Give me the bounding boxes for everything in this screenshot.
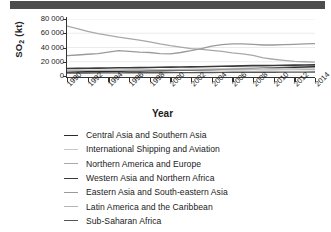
chart-figure: SO2 (kt) 020 00040 00060 00080 000 19901… xyxy=(0,11,325,232)
x-tick-mark xyxy=(88,78,89,82)
x-tick-mark xyxy=(294,78,295,82)
x-tick-mark xyxy=(67,78,68,82)
x-axis-title: Year xyxy=(0,108,325,119)
y-tick-mark xyxy=(63,76,67,77)
legend-label: Northern America and Europe xyxy=(86,159,201,169)
x-tick-mark xyxy=(315,78,316,82)
legend-item[interactable]: Northern America and Europe xyxy=(0,157,325,171)
legend-label: Sub-Saharan Africa xyxy=(86,216,161,226)
y-tick-label: 40 000 xyxy=(41,44,64,52)
x-tick-mark xyxy=(232,78,233,82)
legend-label: International Shipping and Aviation xyxy=(86,144,220,154)
y-tick-mark xyxy=(63,48,67,49)
series-line xyxy=(67,26,315,62)
y-tick-label: 80 000 xyxy=(41,15,64,23)
y-axis-title-subscript: 2 xyxy=(18,40,25,44)
x-tick-mark xyxy=(253,78,254,82)
x-tick-mark xyxy=(191,78,192,82)
legend-item[interactable]: Latin America and the Caribbean xyxy=(0,199,325,213)
y-tick-label: 60 000 xyxy=(41,29,64,37)
plot-area xyxy=(67,19,315,76)
legend-label: Central Asia and Southern Asia xyxy=(86,130,206,140)
y-axis-title-base: SO xyxy=(13,44,24,58)
legend-label: Eastern Asia and South-eastern Asia xyxy=(86,187,228,197)
legend-item[interactable]: Eastern Asia and South-eastern Asia xyxy=(0,185,325,199)
y-axis-title: SO2 (kt) xyxy=(13,10,26,68)
legend-line-swatch xyxy=(64,149,78,150)
y-tick-label: 20 000 xyxy=(41,58,64,66)
y-tick-mark xyxy=(63,33,67,34)
x-tick-mark xyxy=(170,78,171,82)
x-axis-tick-labels: 1990199219941996199820002002200420062008… xyxy=(0,82,325,106)
legend-line-swatch xyxy=(64,206,78,207)
legend-item[interactable]: Sub-Saharan Africa xyxy=(0,214,325,228)
x-tick-mark xyxy=(150,78,151,82)
legend-line-swatch xyxy=(64,178,78,179)
y-tick-mark xyxy=(63,19,67,20)
line-chart-svg xyxy=(67,19,315,76)
legend-line-swatch xyxy=(64,163,78,164)
x-tick-mark xyxy=(212,78,213,82)
plot-region: SO2 (kt) 020 00040 00060 00080 000 19901… xyxy=(0,11,325,103)
legend-item[interactable]: International Shipping and Aviation xyxy=(0,142,325,156)
series-line xyxy=(67,72,315,73)
chart-legend: Central Asia and Southern AsiaInternatio… xyxy=(0,128,325,232)
x-tick-mark xyxy=(129,78,130,82)
legend-line-swatch xyxy=(64,135,78,136)
y-axis-tick-labels: 020 00040 00060 00080 000 xyxy=(26,19,64,75)
window-header-bar xyxy=(10,1,325,9)
legend-item[interactable]: Western Asia and Northern Africa xyxy=(0,171,325,185)
legend-line-swatch xyxy=(64,192,78,193)
y-axis-title-unit: (kt) xyxy=(13,21,24,39)
legend-label: Latin America and the Caribbean xyxy=(86,202,213,212)
series-line xyxy=(67,70,315,71)
x-tick-mark xyxy=(274,78,275,82)
legend-line-swatch xyxy=(64,220,78,221)
x-tick-mark xyxy=(108,78,109,82)
legend-item[interactable]: Central Asia and Southern Asia xyxy=(0,128,325,142)
y-tick-mark xyxy=(63,62,67,63)
series-line xyxy=(67,44,315,56)
legend-label: Western Asia and Northern Africa xyxy=(86,173,215,183)
